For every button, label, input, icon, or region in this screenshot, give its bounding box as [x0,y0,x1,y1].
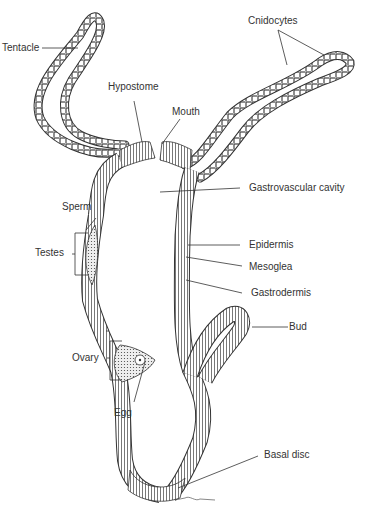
bud [190,314,242,380]
label-sperm: Sperm [62,202,91,212]
label-hypostome: Hypostome [108,82,159,92]
label-mouth: Mouth [172,107,200,117]
label-basal-disc: Basal disc [264,450,310,460]
label-mesoglea: Mesoglea [249,262,292,272]
label-epidermis: Epidermis [249,240,293,250]
right-tentacle [185,56,350,178]
label-tentacle: Tentacle [2,43,39,53]
label-gastrovascular-cavity: Gastrovascular cavity [249,183,345,193]
label-cnidocytes: Cnidocytes [248,16,297,26]
ovary [114,345,155,382]
hypostome [120,142,192,170]
label-egg: Egg [114,408,132,418]
label-testes: Testes [35,248,64,258]
label-gastrodermis: Gastrodermis [251,288,311,298]
hydra-diagram: Tentacle Hypostome Mouth Cnidocytes Gast… [0,0,367,511]
artist-signature [175,497,215,500]
label-ovary: Ovary [72,353,99,363]
label-bud: Bud [289,322,307,332]
